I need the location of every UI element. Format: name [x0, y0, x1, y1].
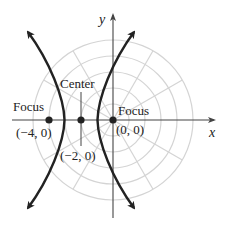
center-coord: (−2, 0) [60, 148, 96, 163]
focus-left-coord: (−4, 0) [16, 125, 52, 140]
focus-right-coord: (0, 0) [116, 122, 144, 137]
x-axis-label: x [208, 125, 216, 140]
focus-right-label: Focus [118, 103, 149, 118]
hyperbola-diagram: x y Focus (−4, 0) Center (−2, 0) Focus (… [0, 0, 227, 227]
focus-left-label: Focus [13, 99, 44, 114]
focus-left-point [45, 116, 52, 123]
center-point [77, 116, 84, 123]
y-axis-label: y [97, 12, 106, 27]
center-label: Center [60, 76, 95, 91]
